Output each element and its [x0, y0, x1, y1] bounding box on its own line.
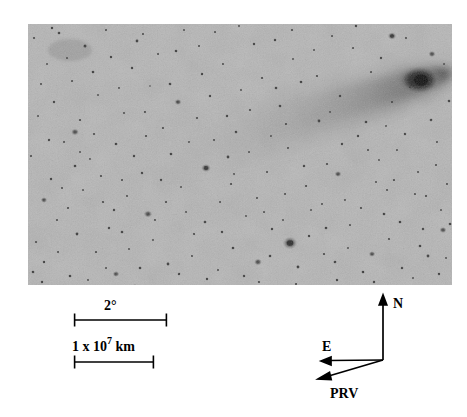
comet-photograph-plate [28, 24, 452, 285]
angular-scale-bar [74, 314, 167, 327]
angular-scale-label: 2° [104, 299, 117, 313]
east-label: E [322, 340, 331, 354]
linear-scale-prefix: 1 x 10 [72, 339, 107, 354]
comet-plate-svg [28, 24, 452, 285]
linear-scale-bar [74, 356, 154, 369]
linear-scale-suffix: km [112, 339, 135, 354]
east-arrow [321, 357, 383, 365]
north-arrow [379, 295, 387, 360]
prv-arrow [318, 360, 383, 380]
linear-scale-exponent: 7 [107, 335, 112, 346]
prv-label: PRV [330, 387, 358, 401]
linear-scale-label: 1 x 107 km [72, 337, 135, 354]
north-label: N [393, 297, 403, 311]
